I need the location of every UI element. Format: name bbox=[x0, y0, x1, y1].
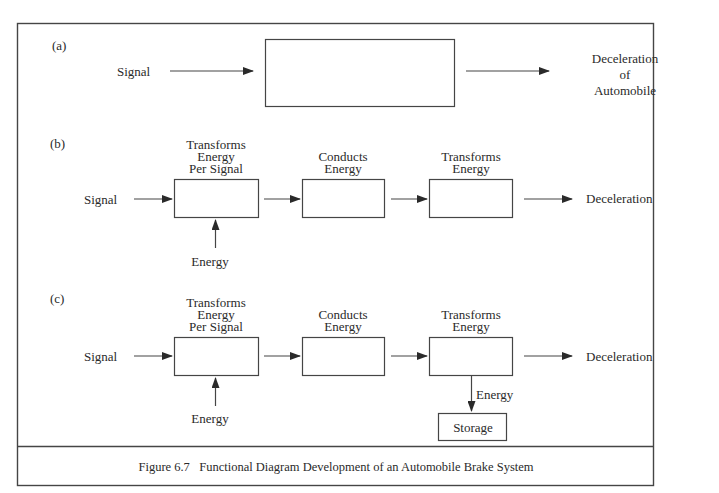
panel-c-energy-out-label: Energy bbox=[476, 388, 513, 401]
panel-c-block-2-caption: Conducts Energy bbox=[293, 309, 393, 333]
panel-c-block-2-line2: Energy bbox=[293, 321, 393, 333]
panel-c-block-1-caption: Transforms Energy Per Signal bbox=[166, 297, 266, 333]
panel-a-output-label: Deceleration of Automobile bbox=[570, 52, 680, 97]
panel-a-output-line2: of bbox=[570, 68, 680, 81]
panel-b-block-1-line3: Per Signal bbox=[166, 163, 266, 175]
panel-a-block bbox=[266, 40, 455, 107]
panel-a-output-line1: Deceleration bbox=[570, 52, 680, 65]
panel-c-energy-in-label: Energy bbox=[180, 412, 240, 425]
panel-c-block-3 bbox=[430, 338, 513, 376]
panel-b-block-2-line2: Energy bbox=[293, 163, 393, 175]
panel-b-block-2 bbox=[303, 180, 385, 218]
panel-c-block-1-line3: Per Signal bbox=[166, 321, 266, 333]
panel-b-block-3-caption: Transforms Energy bbox=[421, 151, 521, 175]
panel-a-label: (a) bbox=[52, 39, 66, 52]
panel-b-signal-label: Signal bbox=[84, 193, 117, 206]
figure-frame bbox=[18, 24, 654, 486]
panel-a-output-line3: Automobile bbox=[570, 84, 680, 97]
panel-b-block-3 bbox=[430, 180, 513, 218]
panel-c-storage-label: Storage bbox=[439, 421, 507, 434]
panel-b-block-3-line2: Energy bbox=[421, 163, 521, 175]
panel-b-block-1-caption: Transforms Energy Per Signal bbox=[166, 139, 266, 175]
panel-c-label: (c) bbox=[50, 292, 64, 305]
panel-a-signal-label: Signal bbox=[117, 65, 150, 78]
panel-c-block-1 bbox=[175, 338, 259, 376]
panel-b-energy-label: Energy bbox=[180, 255, 240, 268]
panel-c-output-label: Deceleration bbox=[586, 350, 652, 363]
panel-c-block-2 bbox=[303, 338, 385, 376]
panel-b-block-2-caption: Conducts Energy bbox=[293, 151, 393, 175]
panel-c-block-3-line2: Energy bbox=[421, 321, 521, 333]
panel-c-block-3-caption: Transforms Energy bbox=[421, 309, 521, 333]
panel-c-signal-label: Signal bbox=[84, 350, 117, 363]
panel-b-block-1 bbox=[175, 180, 259, 218]
panel-b-output-label: Deceleration bbox=[586, 192, 652, 205]
figure-caption: Figure 6.7 Functional Diagram Developmen… bbox=[18, 460, 654, 474]
panel-b-label: (b) bbox=[50, 137, 65, 150]
